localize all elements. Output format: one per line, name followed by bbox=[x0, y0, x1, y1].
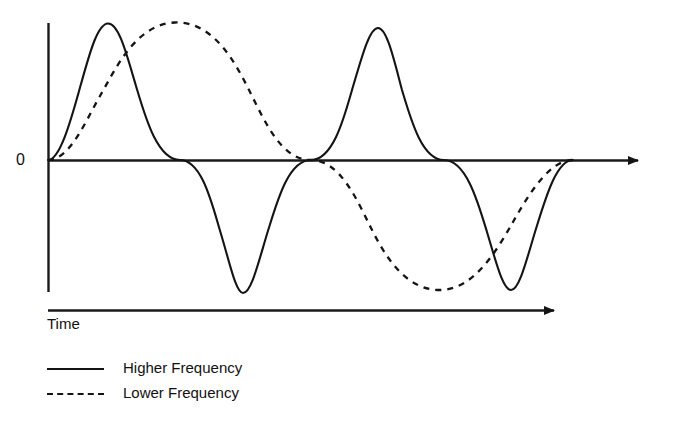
legend-item-higher-frequency: Higher Frequency bbox=[45, 357, 345, 382]
legend: Higher Frequency Lower Frequency bbox=[45, 357, 345, 407]
y-axis-zero-label: 0 bbox=[16, 152, 25, 168]
legend-label-lower-frequency: Lower Frequency bbox=[123, 384, 239, 401]
solid-line-sample bbox=[47, 368, 104, 370]
legend-item-lower-frequency: Lower Frequency bbox=[45, 382, 345, 407]
legend-label-higher-frequency: Higher Frequency bbox=[123, 359, 242, 376]
lower-frequency-waveform bbox=[48, 22, 573, 290]
dashed-line-sample bbox=[47, 393, 104, 395]
frequency-comparison-figure: 0 Time Higher Frequency Lower Frequency bbox=[0, 0, 673, 421]
time-axis-label: Time bbox=[47, 316, 80, 331]
